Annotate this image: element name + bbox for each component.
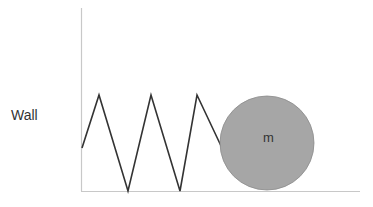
spring xyxy=(82,95,222,191)
wall-label: Wall xyxy=(11,107,38,123)
spring-mass-diagram xyxy=(0,0,373,207)
mass-label: m xyxy=(263,130,274,145)
